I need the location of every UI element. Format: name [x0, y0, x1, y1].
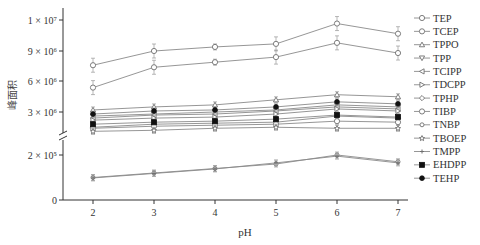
legend-marker-icon: [420, 82, 425, 87]
y-tick-label: 3 × 10⁶: [28, 107, 58, 118]
legend-item-tibp: TIBP: [414, 106, 456, 117]
legend-marker-icon: [419, 69, 424, 74]
legend-label: TDCPP: [433, 79, 466, 90]
x-tick-label: 5: [274, 207, 279, 218]
legend-marker-icon: [420, 123, 424, 127]
legend-item-tboep: TBOEP: [414, 133, 466, 144]
legend-item-tphp: TPHP: [414, 93, 459, 104]
x-axis-title: pH: [238, 226, 252, 238]
legend-marker-icon: [419, 96, 424, 101]
legend-item-tnbp: TNBP: [414, 119, 460, 130]
legend-marker-icon: [419, 29, 424, 34]
y-tick-label: 1 × 10⁷: [28, 15, 58, 26]
legend-marker-icon: [419, 136, 424, 141]
y-tick-label: 6 × 10⁶: [28, 76, 58, 87]
legend-label: TCIPP: [433, 66, 462, 77]
series-layer: [90, 17, 400, 181]
legend-item-tcipp: TCIPP: [414, 66, 462, 77]
legend-item-tep: TEP: [414, 13, 452, 24]
x-tick-label: 3: [152, 207, 157, 218]
x-tick-label: 2: [91, 207, 96, 218]
legend-marker-icon: [420, 176, 425, 181]
legend-marker-icon: [419, 15, 424, 20]
y-tick-label: 2 × 10⁵: [28, 150, 57, 161]
legend-marker-icon: [420, 150, 424, 154]
line-chart-svg: 1 × 10⁷9 × 10⁶6 × 10⁶3 × 10⁶2 × 10⁵02345…: [0, 0, 480, 245]
legend-marker-icon: [420, 162, 425, 167]
series-tboep: [90, 124, 400, 134]
legend-item-tppo: TPPO: [414, 39, 459, 50]
legend-label: TNBP: [433, 119, 460, 130]
x-tick-label: 7: [396, 207, 401, 218]
y-tick-label: 0: [52, 195, 57, 206]
y-tick-label: 9 × 10⁶: [28, 46, 58, 57]
axis-break-mark: [59, 136, 67, 140]
legend-item-tehp: TEHP: [414, 173, 459, 184]
legend: TEPTCEPTPPOTPPTCIPPTDCPPTPHPTIBPTNBPTBOE…: [414, 13, 466, 184]
legend-label: TPP: [433, 53, 451, 64]
chart: 1 × 10⁷9 × 10⁶6 × 10⁶3 × 10⁶2 × 10⁵02345…: [0, 0, 480, 245]
axes: 1 × 10⁷9 × 10⁶6 × 10⁶3 × 10⁶2 × 10⁵02345…: [28, 8, 408, 218]
series-tmpp: [91, 153, 400, 181]
legend-item-tdcpp: TDCPP: [414, 79, 466, 90]
legend-item-tcep: TCEP: [414, 26, 459, 37]
legend-label: TCEP: [433, 26, 459, 37]
x-tick-label: 6: [335, 207, 340, 218]
legend-item-tmpp: TMPP: [414, 146, 461, 157]
legend-label: EHDPP: [433, 159, 466, 170]
legend-label: TMPP: [433, 146, 461, 157]
legend-label: TPPO: [433, 39, 459, 50]
legend-marker-icon: [419, 109, 424, 114]
legend-label: TEHP: [433, 173, 459, 184]
legend-item-tpp: TPP: [414, 53, 451, 64]
series-tep: [90, 36, 400, 95]
legend-label: TPHP: [433, 93, 459, 104]
legend-label: TIBP: [433, 106, 456, 117]
y-axis-title: 峰面积: [7, 80, 18, 110]
legend-label: TEP: [433, 13, 452, 24]
series-tcep: [90, 17, 400, 73]
x-tick-label: 4: [213, 207, 218, 218]
legend-item-ehdpp: EHDPP: [414, 159, 466, 170]
legend-label: TBOEP: [433, 133, 466, 144]
